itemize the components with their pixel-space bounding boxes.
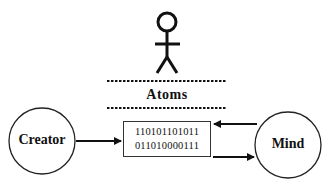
diagram-canvas: Atoms Creator Mind 110101101011 01101000… [0, 0, 331, 190]
binary-line-1: 110101101011 [124, 126, 210, 137]
stick-figure-head [158, 13, 176, 31]
binary-line-2: 011010000111 [124, 140, 210, 151]
stick-figure-right-leg [167, 57, 177, 73]
stick-figure-icon [155, 13, 180, 73]
stick-figure-left-leg [157, 57, 167, 73]
mind-node-label: Mind [254, 136, 322, 152]
binary-data-box: 110101101011 011010000111 [123, 121, 211, 157]
creator-node-label: Creator [8, 132, 76, 148]
atoms-label: Atoms [107, 87, 227, 103]
